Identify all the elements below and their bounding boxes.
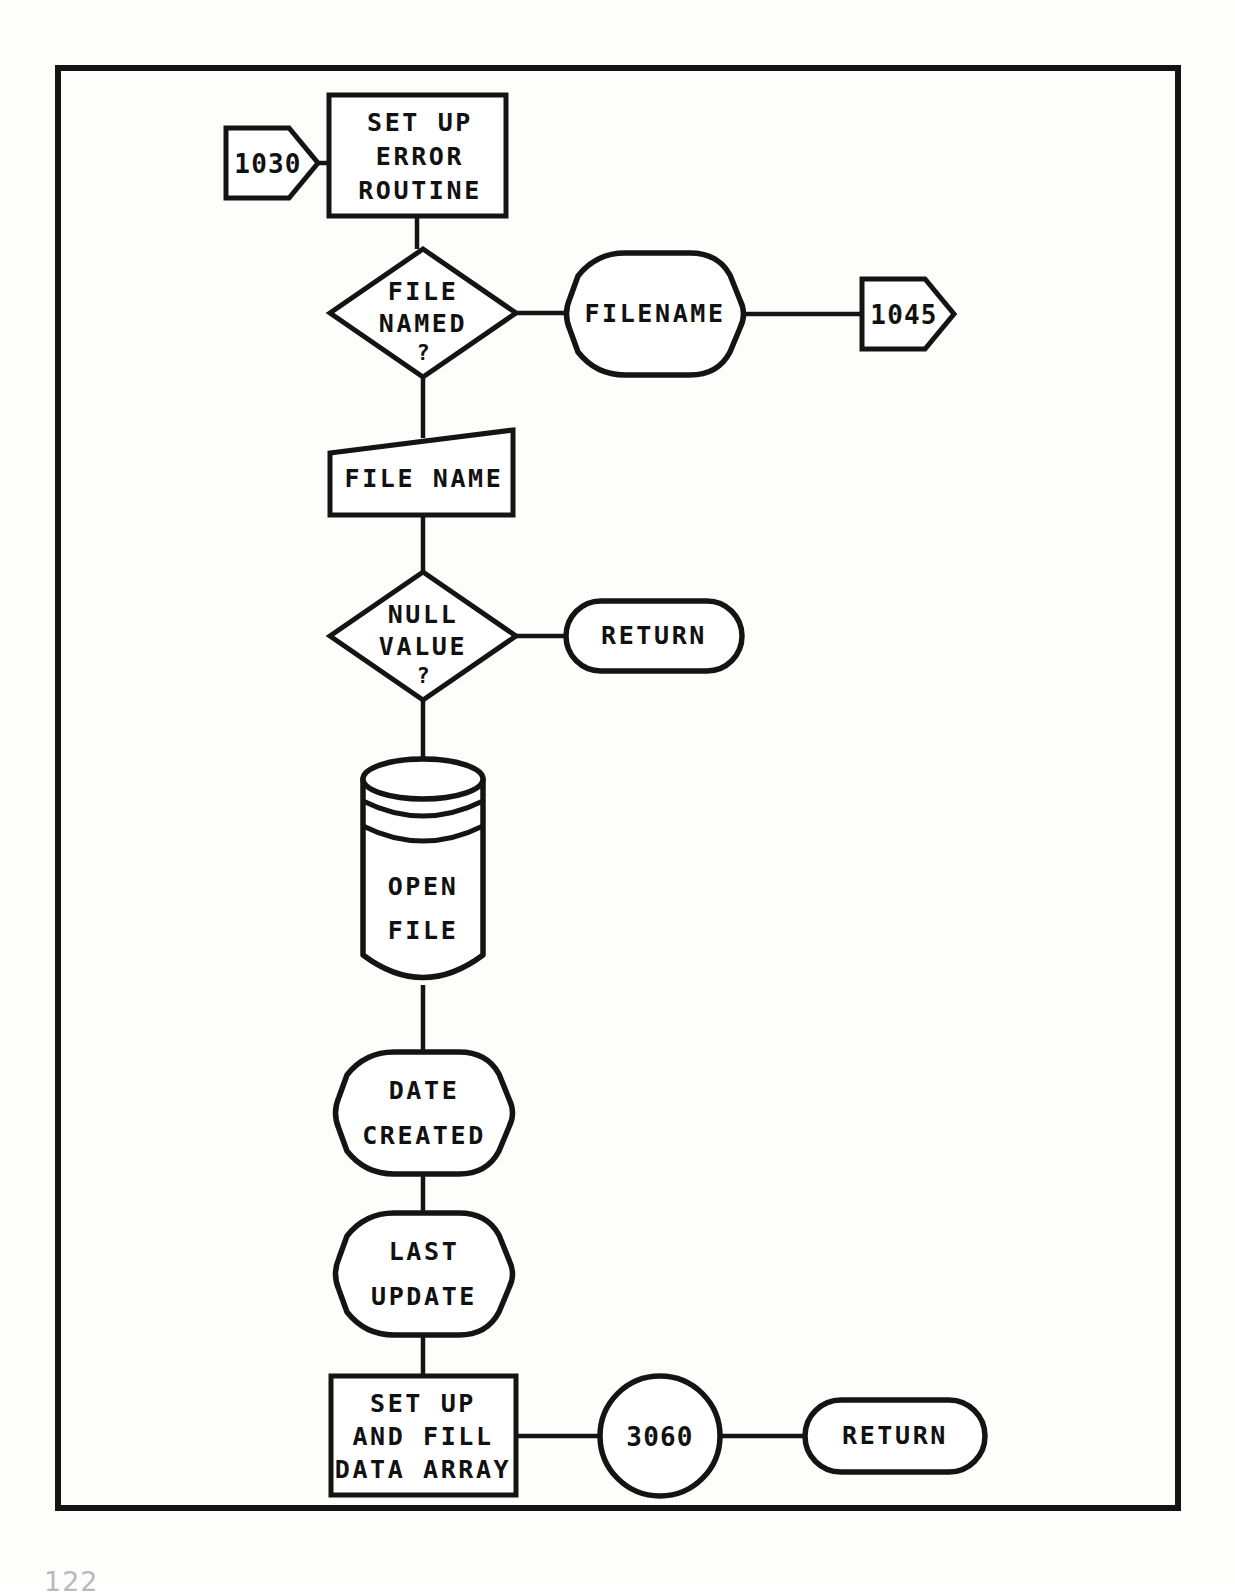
node-label-line-2: NAMED: [379, 309, 467, 338]
node-label-line-2: AND FILL: [352, 1422, 493, 1451]
node-label-line-2: FILE: [388, 916, 459, 945]
node-label-line-1: DATE: [389, 1076, 460, 1105]
node-return-2[interactable]: RETURN: [805, 1400, 985, 1472]
node-label: FILENAME: [584, 299, 725, 328]
node-last-update-display[interactable]: LAST UPDATE: [336, 1213, 513, 1335]
node-label: 3060: [626, 1422, 693, 1452]
node-label-line-1: OPEN: [388, 872, 459, 901]
node-setup-error-routine[interactable]: SET UP ERROR ROUTINE: [329, 95, 506, 216]
node-label-line-3: ?: [416, 340, 429, 365]
node-connector-1030[interactable]: 1030: [226, 128, 318, 198]
node-label-line-3: DATA ARRAY: [335, 1455, 512, 1484]
node-label-line-1: SET UP: [367, 108, 473, 137]
node-label: 1045: [870, 300, 937, 330]
page-number: 122: [44, 1566, 99, 1595]
node-label-line-2: VALUE: [379, 632, 467, 661]
node-label: RETURN: [601, 621, 707, 650]
node-label: RETURN: [842, 1421, 948, 1450]
node-label-line-2: UPDATE: [371, 1282, 477, 1311]
node-label-line-1: LAST: [389, 1237, 460, 1266]
node-connector-3060[interactable]: 3060: [600, 1376, 720, 1496]
display-shape: [336, 1052, 513, 1174]
node-connector-1045[interactable]: 1045: [862, 279, 954, 349]
cylinder-top-ellipse: [363, 759, 483, 799]
node-return-1[interactable]: RETURN: [566, 601, 742, 671]
node-file-name-input[interactable]: FILE NAME: [330, 430, 513, 515]
node-label-line-3: ?: [416, 663, 429, 688]
node-label: 1030: [234, 149, 301, 179]
node-label-line-2: ERROR: [376, 142, 464, 171]
display-shape: [336, 1213, 513, 1335]
node-label: FILE NAME: [345, 464, 504, 493]
node-label-line-1: SET UP: [370, 1389, 476, 1418]
node-setup-fill-data-array[interactable]: SET UP AND FILL DATA ARRAY: [331, 1376, 516, 1495]
node-label-line-2: CREATED: [362, 1121, 486, 1150]
node-open-file-storage[interactable]: OPEN FILE: [363, 759, 483, 978]
node-label-line-1: FILE: [388, 277, 459, 306]
node-null-value-decision[interactable]: NULL VALUE ?: [330, 572, 516, 700]
node-label-line-1: NULL: [388, 600, 459, 629]
node-file-named-decision[interactable]: FILE NAMED ?: [330, 249, 516, 377]
node-label-line-3: ROUTINE: [358, 176, 482, 205]
node-date-created-display[interactable]: DATE CREATED: [336, 1052, 513, 1174]
node-filename-display[interactable]: FILENAME: [567, 253, 744, 375]
